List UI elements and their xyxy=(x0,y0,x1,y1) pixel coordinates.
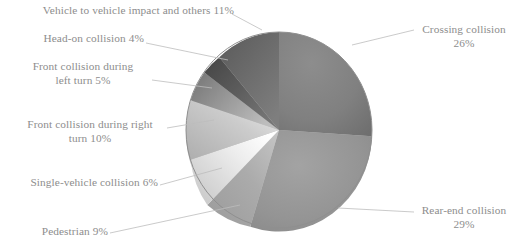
leader-line-rear-end xyxy=(338,208,414,212)
pie-label-pedestrian: Pedestrian 9% xyxy=(10,225,108,239)
leader-line-pedestrian xyxy=(110,205,240,233)
pie-label-vehicle-to-vehicle: Vehicle to vehicle impact and others 11% xyxy=(18,4,234,18)
pie-label-head-on-collision: Head-on collision 4% xyxy=(14,32,144,46)
leader-line-head-on xyxy=(146,43,228,60)
pie-label-front-collision-right-turn: Front collision during right turn 10% xyxy=(14,118,166,145)
leader-line-crossing xyxy=(352,30,414,45)
pie-label-front-collision-left-turn: Front collision during left turn 5% xyxy=(16,60,150,87)
pie-slices xyxy=(186,32,372,232)
leader-line-vehicle-to-vehicle xyxy=(232,14,262,30)
pie-label-crossing-collision: Crossing collision 26% xyxy=(412,23,516,50)
pie-label-rear-end-collision: Rear-end collision 29% xyxy=(412,204,516,231)
pie-label-single-vehicle-collision: Single-vehicle collision 6% xyxy=(10,176,158,190)
pie-slice-crossing-collision xyxy=(279,32,372,136)
pie-chart-figure: Vehicle to vehicle impact and others 11%… xyxy=(0,0,528,250)
